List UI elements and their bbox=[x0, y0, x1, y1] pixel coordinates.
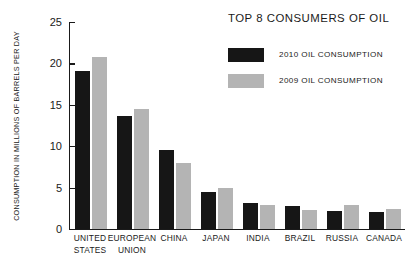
bar bbox=[369, 212, 385, 229]
bar bbox=[260, 205, 276, 229]
bar bbox=[344, 205, 360, 229]
bar bbox=[117, 116, 133, 229]
y-tick-label: 25 bbox=[50, 16, 62, 28]
bar bbox=[159, 150, 175, 229]
x-axis-label-line: CANADA bbox=[359, 233, 409, 245]
x-axis-labels: UNITEDSTATESEUROPEANUNIONCHINAJAPANINDIA… bbox=[69, 233, 405, 277]
x-axis-label-line: UNION bbox=[107, 245, 157, 257]
bar bbox=[134, 109, 150, 229]
legend-swatch-2009 bbox=[228, 74, 264, 88]
x-axis-label: CANADA bbox=[359, 233, 409, 245]
y-tick-label: 0 bbox=[56, 223, 62, 235]
legend-item-2010: 2010 OIL CONSUMPTION bbox=[228, 44, 414, 65]
y-tick-label: 5 bbox=[56, 182, 62, 194]
chart-title: TOP 8 CONSUMERS OF OIL bbox=[228, 12, 389, 24]
bar bbox=[285, 206, 301, 229]
bar bbox=[92, 57, 108, 229]
bar bbox=[176, 163, 192, 229]
bar bbox=[327, 211, 343, 229]
legend-label-2009: 2009 OIL CONSUMPTION bbox=[279, 76, 383, 85]
x-axis-line bbox=[69, 229, 405, 230]
legend-item-2009: 2009 OIL CONSUMPTION bbox=[228, 70, 414, 91]
y-tick-label: 10 bbox=[50, 140, 62, 152]
bar-chart: CONSUMPTION IN MILLIONS OF BARRELS PER D… bbox=[0, 0, 420, 279]
bar bbox=[75, 71, 91, 229]
y-tick-mark bbox=[69, 229, 75, 230]
y-axis-title: CONSUMPTION IN MILLIONS OF BARRELS PER D… bbox=[10, 16, 24, 236]
bar bbox=[218, 188, 234, 229]
y-tick-label: 20 bbox=[50, 57, 62, 69]
legend-swatch-2010 bbox=[228, 48, 264, 62]
y-tick-label: 15 bbox=[50, 99, 62, 111]
bar bbox=[201, 192, 217, 229]
bar bbox=[386, 209, 402, 229]
bar bbox=[243, 203, 259, 229]
bar bbox=[302, 210, 318, 229]
chart-legend: 2010 OIL CONSUMPTION 2009 OIL CONSUMPTIO… bbox=[228, 44, 414, 96]
legend-label-2010: 2010 OIL CONSUMPTION bbox=[279, 50, 383, 59]
